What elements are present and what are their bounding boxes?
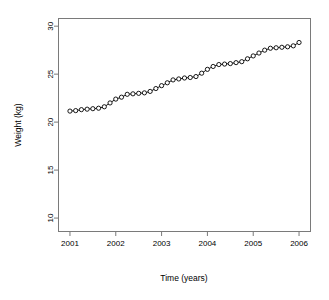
data-point <box>119 95 123 99</box>
data-point <box>182 76 186 80</box>
data-point <box>222 62 226 66</box>
y-tick-label-20: 20 <box>46 117 55 126</box>
data-point <box>74 109 78 113</box>
data-point <box>251 54 255 58</box>
data-point <box>142 91 146 95</box>
chart-figure: 1015202530 200120022003200420052006 Time… <box>0 0 329 300</box>
y-tick-label-30: 30 <box>46 21 55 30</box>
data-point <box>240 60 244 64</box>
figure-background <box>0 0 329 300</box>
data-point <box>194 74 198 78</box>
data-point <box>285 45 289 49</box>
x-tick-label-2001: 2001 <box>61 239 79 248</box>
data-point <box>263 48 267 52</box>
x-tick-label-2002: 2002 <box>107 239 125 248</box>
data-point <box>171 78 175 82</box>
data-point <box>177 77 181 81</box>
y-tick-label-15: 15 <box>46 165 55 174</box>
x-tick-label-2004: 2004 <box>199 239 217 248</box>
data-point <box>228 61 232 65</box>
x-tick-label-2006: 2006 <box>290 239 308 248</box>
data-point <box>91 107 95 111</box>
data-point <box>188 75 192 79</box>
data-point <box>245 57 249 61</box>
data-point <box>125 92 129 96</box>
data-point <box>68 109 72 113</box>
data-point <box>137 91 141 95</box>
data-point <box>291 44 295 48</box>
x-tick-label-2003: 2003 <box>153 239 171 248</box>
data-point <box>108 101 112 105</box>
y-tick-label-10: 10 <box>46 213 55 222</box>
data-point <box>205 67 209 71</box>
y-axis-title: Weight (kg) <box>13 103 23 146</box>
data-point <box>217 62 221 66</box>
data-point <box>148 89 152 93</box>
x-axis-title: Time (years) <box>160 273 208 283</box>
data-point <box>159 84 163 88</box>
data-point <box>79 108 83 112</box>
data-point <box>280 45 284 49</box>
data-point <box>200 71 204 75</box>
data-point <box>154 86 158 90</box>
data-point <box>234 61 238 65</box>
data-point <box>268 46 272 50</box>
data-point <box>85 107 89 111</box>
weight-vs-time-line-chart: 1015202530 200120022003200420052006 Time… <box>0 0 329 300</box>
y-tick-label-25: 25 <box>46 69 55 78</box>
data-point <box>165 81 169 85</box>
data-point <box>102 105 106 109</box>
data-point <box>257 51 261 55</box>
data-point <box>274 46 278 50</box>
data-point <box>211 64 215 68</box>
data-point <box>131 92 135 96</box>
data-point <box>114 97 118 101</box>
data-point <box>96 106 100 110</box>
data-point <box>297 40 301 44</box>
x-tick-label-2005: 2005 <box>244 239 262 248</box>
